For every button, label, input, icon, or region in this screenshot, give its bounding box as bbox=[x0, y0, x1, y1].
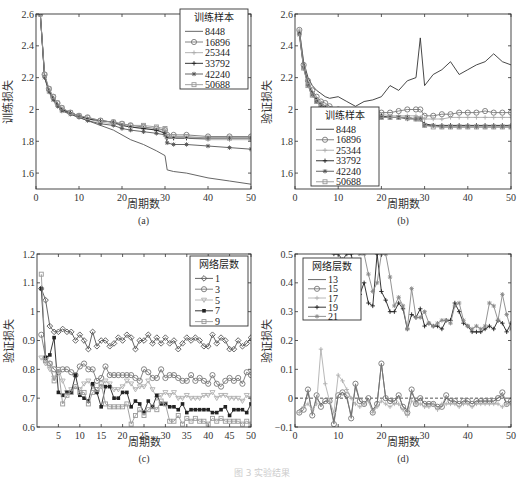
legend: 训练样本84481689625344337924224050688 bbox=[180, 9, 248, 90]
subplot-label: (a) bbox=[138, 215, 149, 227]
marker-square-filled bbox=[129, 405, 133, 409]
y-axis-label: 验证损失 bbox=[260, 80, 274, 124]
marker-plus bbox=[483, 115, 487, 119]
marker-star bbox=[315, 314, 319, 318]
x-tick-label: 35 bbox=[182, 430, 192, 441]
y-tick-label: 0.8 bbox=[23, 364, 36, 375]
series-line bbox=[299, 30, 511, 119]
legend-label: 16896 bbox=[205, 37, 230, 48]
y-tick-label: 1.2 bbox=[23, 249, 36, 260]
marker-square-filled bbox=[172, 405, 176, 409]
x-tick-label: 10 bbox=[333, 192, 343, 203]
y-axis-label: 训练损失 bbox=[1, 80, 15, 124]
marker-plus bbox=[466, 115, 470, 119]
marker-star bbox=[431, 324, 435, 328]
chart-panel-d: 01020304050−0.100.10.20.30.40.5周期数验证损失(d… bbox=[260, 249, 516, 466]
marker-plus bbox=[492, 115, 496, 119]
marker-star bbox=[470, 327, 474, 331]
y-tick-label: 0 bbox=[288, 393, 293, 404]
marker-plus bbox=[504, 330, 508, 334]
marker-star bbox=[192, 72, 196, 76]
marker-star bbox=[427, 321, 431, 325]
x-tick-label: 30 bbox=[420, 430, 430, 441]
marker-square-filled bbox=[99, 405, 103, 409]
marker-star bbox=[492, 304, 496, 308]
marker-star bbox=[474, 324, 478, 328]
marker-square-filled bbox=[198, 408, 202, 412]
x-tick-label: 40 bbox=[203, 192, 213, 203]
y-tick-label: 2.2 bbox=[22, 72, 35, 83]
marker-plus bbox=[448, 402, 452, 406]
x-tick-label: 30 bbox=[420, 192, 430, 203]
x-axis-label: 周期数 bbox=[128, 436, 161, 449]
marker-square-filled bbox=[39, 287, 43, 291]
x-tick-label: 40 bbox=[203, 430, 213, 441]
x-tick-label: 15 bbox=[96, 430, 106, 441]
y-tick-label: 2 bbox=[29, 104, 34, 115]
chart-panel-c: 51015202530354045500.60.70.80.911.11.2周期… bbox=[2, 249, 256, 466]
marker-plus bbox=[500, 115, 504, 119]
subplot-label: (b) bbox=[397, 215, 409, 227]
legend: 网络层数1315171921 bbox=[303, 258, 361, 322]
legend-label: 8448 bbox=[336, 124, 356, 135]
figure-caption: 图 3 实验结果 bbox=[234, 467, 290, 478]
marker-star bbox=[457, 301, 461, 305]
marker-square-filled bbox=[211, 411, 215, 415]
marker-square-filled bbox=[194, 408, 198, 412]
marker-star bbox=[496, 318, 500, 322]
marker-square-filled bbox=[219, 408, 223, 412]
x-tick-label: 0 bbox=[34, 192, 39, 203]
marker-star bbox=[375, 281, 379, 285]
y-tick-label: 1.6 bbox=[22, 168, 35, 179]
y-tick-label: 0.2 bbox=[281, 335, 294, 346]
marker-plus bbox=[379, 289, 383, 293]
marker-plus bbox=[384, 298, 388, 302]
y-tick-label: 1.1 bbox=[23, 277, 36, 288]
series-8448 bbox=[299, 30, 511, 106]
marker-star bbox=[504, 312, 508, 316]
y-tick-label: 1.8 bbox=[281, 136, 294, 147]
x-tick-label: 40 bbox=[463, 430, 473, 441]
legend-title: 网络层数 bbox=[312, 260, 352, 272]
marker-star bbox=[405, 327, 409, 331]
x-tick-label: 20 bbox=[376, 430, 386, 441]
marker-star bbox=[154, 131, 158, 135]
x-tick-label: 10 bbox=[74, 192, 84, 203]
marker-plus bbox=[319, 347, 323, 351]
marker-star bbox=[487, 301, 491, 305]
series-line bbox=[299, 30, 511, 106]
x-tick-label: 50 bbox=[506, 192, 516, 203]
x-tick-label: 20 bbox=[376, 192, 386, 203]
x-tick-label: 10 bbox=[75, 430, 85, 441]
marker-plus bbox=[474, 330, 478, 334]
x-tick-label: 40 bbox=[463, 192, 473, 203]
marker-plus bbox=[487, 402, 491, 406]
marker-plus bbox=[388, 309, 392, 313]
marker-square-filled bbox=[241, 408, 245, 412]
series-15 bbox=[297, 361, 514, 427]
y-tick-label: 0.1 bbox=[281, 364, 294, 375]
x-axis-label: 周期数 bbox=[387, 436, 420, 449]
marker-star bbox=[479, 327, 483, 331]
legend-label: 16896 bbox=[336, 134, 361, 145]
marker-square-filled bbox=[121, 391, 125, 395]
y-axis-label: 验证损失 bbox=[260, 319, 274, 363]
marker-star bbox=[366, 272, 370, 276]
y-tick-label: 0.4 bbox=[281, 277, 294, 288]
marker-star bbox=[141, 130, 145, 134]
y-tick-label: 2 bbox=[288, 104, 293, 115]
marker-plus bbox=[345, 387, 349, 391]
marker-square-filled bbox=[185, 411, 189, 415]
marker-square-filled bbox=[202, 408, 206, 412]
x-tick-label: 5 bbox=[56, 430, 61, 441]
y-tick-label: 0.5 bbox=[281, 249, 294, 260]
marker-star bbox=[206, 144, 210, 148]
legend-label: 25344 bbox=[336, 145, 361, 156]
y-tick-label: 0.9 bbox=[23, 335, 36, 346]
marker-square-filled bbox=[117, 396, 121, 400]
legend-label: 42240 bbox=[336, 166, 361, 177]
marker-star bbox=[401, 304, 405, 308]
x-tick-label: 20 bbox=[117, 192, 127, 203]
marker-square-filled bbox=[155, 393, 159, 397]
marker-star bbox=[435, 321, 439, 325]
